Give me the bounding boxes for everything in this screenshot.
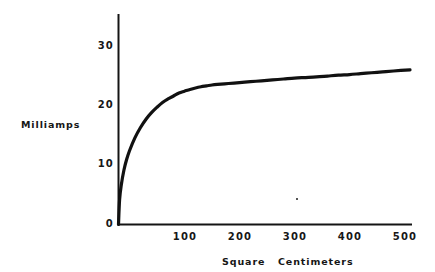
x-tick-label-100: 100 <box>165 231 205 242</box>
x-tick-label-400: 400 <box>330 231 370 242</box>
x-tick-label-200: 200 <box>220 231 260 242</box>
y-tick-label-0: 0 <box>88 218 114 229</box>
y-tick-label-20: 20 <box>88 99 114 110</box>
chart-figure: Milliamps Square Centimeters 30 20 10 0 … <box>0 0 435 272</box>
y-tick-label-30: 30 <box>88 40 114 51</box>
y-tick-label-10: 10 <box>88 158 114 169</box>
data-curve <box>119 70 411 225</box>
x-axis-title: Square Centimeters <box>222 256 354 267</box>
x-tick-label-500: 500 <box>385 231 425 242</box>
y-axis-title: Milliamps <box>21 119 80 130</box>
x-tick-label-300: 300 <box>275 231 315 242</box>
dust-speck-artifact <box>296 198 298 200</box>
